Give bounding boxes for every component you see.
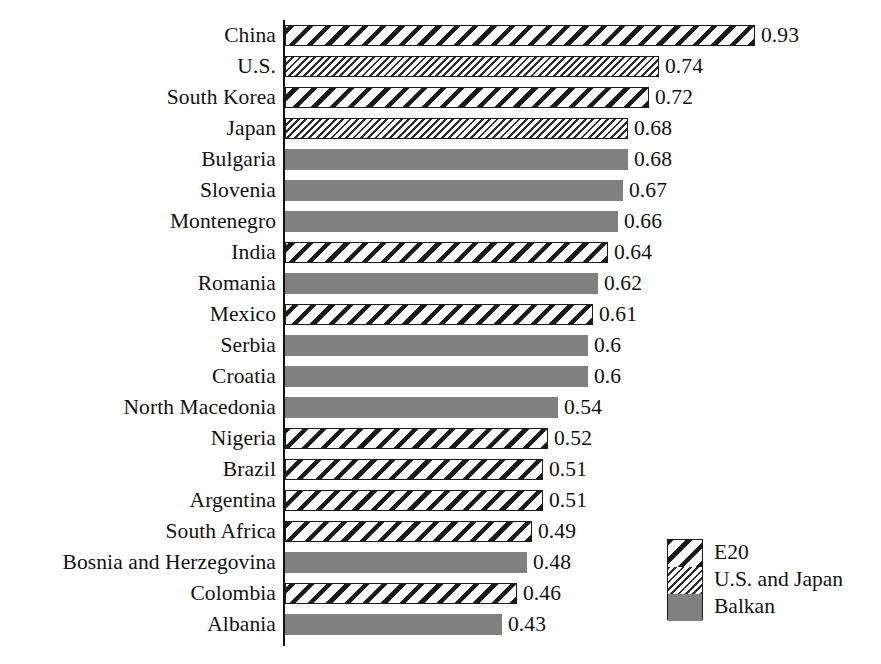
bar-row: Slovenia0.67 (0, 175, 881, 206)
bar-balkan (285, 397, 558, 418)
bar-value-label: 0.93 (761, 20, 799, 51)
bar-value-label: 0.51 (549, 454, 587, 485)
bar-balkan (285, 552, 527, 573)
bar-track (285, 118, 628, 139)
bar-value-label: 0.62 (604, 268, 642, 299)
bar-balkan (285, 211, 618, 232)
bar-category-label: Argentina (190, 485, 276, 516)
bar-track (285, 25, 755, 46)
bar-chart: China0.93U.S.0.74South Korea0.72Japan0.6… (0, 0, 881, 664)
bar-category-label: Croatia (212, 361, 276, 392)
bar-us-and-japan (285, 118, 628, 139)
bar-track (285, 180, 623, 201)
bar-value-label: 0.49 (538, 516, 576, 547)
bar-e20 (285, 459, 543, 480)
bar-row: Brazil0.51 (0, 454, 881, 485)
bar-row: Argentina0.51 (0, 485, 881, 516)
bar-category-label: Colombia (190, 578, 276, 609)
legend-swatch-us-and-japan (668, 567, 702, 594)
bar-balkan (285, 180, 623, 201)
bar-track (285, 428, 548, 449)
bar-track (285, 614, 502, 635)
plot-area: China0.93U.S.0.74South Korea0.72Japan0.6… (0, 0, 881, 664)
bar-balkan (285, 149, 628, 170)
bar-track (285, 273, 598, 294)
bar-category-label: U.S. (237, 51, 276, 82)
bar-track (285, 397, 558, 418)
bar-track (285, 459, 543, 480)
bar-us-and-japan (285, 56, 659, 77)
bar-category-label: Montenegro (170, 206, 276, 237)
bar-row: South Africa0.49 (0, 516, 881, 547)
bar-value-label: 0.48 (533, 547, 571, 578)
bar-value-label: 0.66 (624, 206, 662, 237)
legend-label-us-and-japan: U.S. and Japan (714, 566, 843, 593)
bar-row: Japan0.68 (0, 113, 881, 144)
bar-value-label: 0.6 (594, 361, 621, 392)
bar-e20 (285, 25, 755, 46)
legend-label-balkan: Balkan (714, 593, 775, 620)
bar-balkan (285, 273, 598, 294)
bar-e20 (285, 490, 543, 511)
bar-row: Romania0.62 (0, 268, 881, 299)
bar-track (285, 552, 527, 573)
bar-row: Croatia0.6 (0, 361, 881, 392)
bar-value-label: 0.6 (594, 330, 621, 361)
bar-e20 (285, 521, 532, 542)
bar-category-label: Nigeria (211, 423, 276, 454)
bar-row: Nigeria0.52 (0, 423, 881, 454)
bar-track (285, 335, 588, 356)
bar-category-label: Serbia (220, 330, 276, 361)
legend-swatch-column (667, 539, 703, 620)
legend-swatch-balkan (668, 594, 702, 621)
bar-row: Serbia0.6 (0, 330, 881, 361)
bar-track (285, 521, 532, 542)
bar-value-label: 0.43 (508, 609, 546, 640)
legend-swatch-e20 (668, 540, 702, 567)
bar-value-label: 0.67 (629, 175, 667, 206)
bar-row: South Korea0.72 (0, 82, 881, 113)
bar-e20 (285, 428, 548, 449)
bar-value-label: 0.54 (564, 392, 602, 423)
bar-track (285, 56, 659, 77)
bar-category-label: China (224, 20, 276, 51)
bar-value-label: 0.46 (523, 578, 561, 609)
bar-category-label: North Macedonia (123, 392, 276, 423)
bar-row: India0.64 (0, 237, 881, 268)
bar-e20 (285, 87, 649, 108)
bar-e20 (285, 242, 608, 263)
bar-value-label: 0.68 (634, 144, 672, 175)
bar-category-label: Japan (227, 113, 276, 144)
bar-value-label: 0.52 (554, 423, 592, 454)
bar-row: North Macedonia0.54 (0, 392, 881, 423)
legend-label-e20: E20 (714, 539, 749, 566)
bar-track (285, 583, 517, 604)
bar-value-label: 0.64 (614, 237, 652, 268)
bar-category-label: South Africa (166, 516, 276, 547)
bar-category-label: India (231, 237, 276, 268)
bar-category-label: Albania (207, 609, 276, 640)
bar-track (285, 149, 628, 170)
bar-row: China0.93 (0, 20, 881, 51)
bar-row: Montenegro0.66 (0, 206, 881, 237)
bar-value-label: 0.74 (665, 51, 703, 82)
bar-category-label: Brazil (223, 454, 276, 485)
bar-row: Mexico0.61 (0, 299, 881, 330)
bar-track (285, 366, 588, 387)
bar-e20 (285, 583, 517, 604)
bar-category-label: Bosnia and Herzegovina (62, 547, 276, 578)
bar-track (285, 490, 543, 511)
bar-e20 (285, 304, 593, 325)
bar-category-label: Mexico (210, 299, 276, 330)
bar-track (285, 211, 618, 232)
bar-value-label: 0.68 (634, 113, 672, 144)
bar-track (285, 242, 608, 263)
bar-balkan (285, 366, 588, 387)
bar-balkan (285, 614, 502, 635)
bar-track (285, 304, 593, 325)
bar-value-label: 0.61 (599, 299, 637, 330)
bar-row: Bulgaria0.68 (0, 144, 881, 175)
bar-category-label: South Korea (167, 82, 276, 113)
bar-balkan (285, 335, 588, 356)
bar-track (285, 87, 649, 108)
